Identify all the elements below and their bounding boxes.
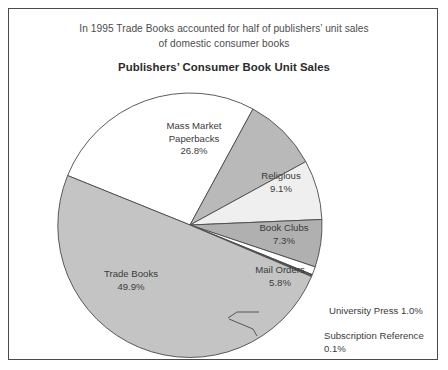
slice-label-university-press: University Press 1.0% [329, 305, 423, 316]
figure-frame: In 1995 Trade Books accounted for half o… [8, 8, 438, 360]
pie-chart: Mass MarketPaperbacks26.8%Religious9.1%B… [9, 9, 439, 361]
pie-chart-svg: Mass MarketPaperbacks26.8%Religious9.1%B… [9, 9, 439, 361]
slice-label-subscription-reference: Subscription Reference0.1% [324, 330, 424, 354]
